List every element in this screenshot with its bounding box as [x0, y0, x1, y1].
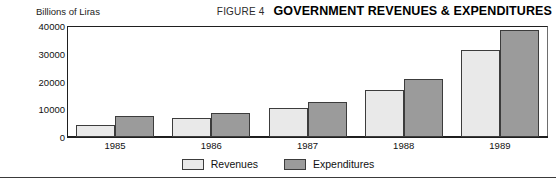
- bar-expenditures-1988: [404, 79, 443, 137]
- x-axis-tick-1989: 1989: [489, 140, 510, 151]
- y-axis: 010000200003000040000: [0, 0, 65, 178]
- figure-government-revenues-expenditures: Billions of Liras FIGURE 4 GOVERNMENT RE…: [0, 0, 556, 178]
- x-axis-tick-1988: 1988: [393, 140, 414, 151]
- bar-revenues-1986: [172, 118, 211, 137]
- figure-number: FIGURE 4: [217, 6, 265, 17]
- bar-expenditures-1986: [211, 113, 250, 137]
- bar-expenditures-1985: [115, 116, 154, 137]
- bar-revenues-1985: [76, 125, 115, 137]
- chart-legend: RevenuesExpenditures: [0, 158, 556, 170]
- legend-label-expenditures: Expenditures: [313, 158, 374, 170]
- y-axis-tick-20000: 20000: [3, 76, 65, 87]
- x-axis-labels: 19851986198719881989: [67, 140, 548, 156]
- bar-group-1987: [269, 26, 347, 137]
- legend-item-revenues: Revenues: [182, 158, 258, 170]
- y-axis-tick-0: 0: [3, 132, 65, 143]
- y-axis-tick-10000: 10000: [3, 104, 65, 115]
- bar-expenditures-1987: [308, 102, 347, 137]
- bar-group-1988: [365, 26, 443, 137]
- bar-revenues-1989: [461, 50, 500, 137]
- legend-label-revenues: Revenues: [211, 158, 258, 170]
- bar-revenues-1988: [365, 90, 404, 137]
- bars-layer: [67, 26, 548, 137]
- bar-revenues-1987: [269, 108, 308, 137]
- figure-title: GOVERNMENT REVENUES & EXPENDITURES: [274, 4, 552, 18]
- bar-group-1989: [461, 26, 539, 137]
- x-axis-tick-1985: 1985: [105, 140, 126, 151]
- y-axis-tick-40000: 40000: [3, 21, 65, 32]
- x-axis-tick-1986: 1986: [201, 140, 222, 151]
- legend-swatch-expenditures: [284, 159, 306, 170]
- bar-group-1985: [76, 26, 154, 137]
- legend-item-expenditures: Expenditures: [284, 158, 374, 170]
- bar-expenditures-1989: [500, 30, 539, 137]
- legend-swatch-revenues: [182, 159, 204, 170]
- figure-caption: FIGURE 4 GOVERNMENT REVENUES & EXPENDITU…: [217, 4, 552, 18]
- bar-group-1986: [172, 26, 250, 137]
- x-axis-tick-1987: 1987: [297, 140, 318, 151]
- y-axis-tick-30000: 30000: [3, 48, 65, 59]
